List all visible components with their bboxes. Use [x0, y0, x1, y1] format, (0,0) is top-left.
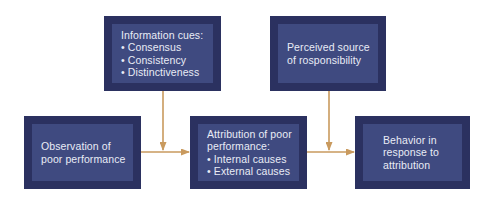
node-text-line: Attribution of poor — [207, 128, 293, 141]
node-text-line: poor performance — [41, 153, 127, 166]
node-perceived-source-panel: Perceived source of rosponsibility — [278, 24, 378, 83]
node-attribution: Attribution of poor performance: Interna… — [190, 116, 307, 189]
bullet-item: Consensus — [121, 41, 207, 54]
bullet-item: Distinctiveness — [121, 66, 207, 79]
node-text-line: performance: — [207, 140, 293, 153]
node-observation-panel: Observation of poor performance — [32, 124, 133, 181]
node-observation: Observation of poor performance — [24, 116, 141, 189]
bullet-item: Internal causes — [207, 153, 293, 166]
node-text-line: response to — [383, 146, 456, 159]
bullet-item: External causes — [207, 165, 293, 178]
node-text-line: of rosponsibility — [287, 54, 372, 67]
node-behavior: Behavior in response to attribution — [355, 116, 470, 189]
node-behavior-panel: Behavior in response to attribution — [363, 124, 462, 181]
bullet-list: Consensus Consistency Distinctiveness — [121, 41, 207, 79]
node-attribution-panel: Attribution of poor performance: Interna… — [198, 124, 299, 181]
node-information-cues: Information cues: Consensus Consistency … — [104, 16, 221, 91]
node-information-cues-panel: Information cues: Consensus Consistency … — [112, 24, 213, 83]
node-text-line: Perceived source — [287, 41, 372, 54]
node-title: Information cues: — [121, 29, 207, 42]
bullet-item: Consistency — [121, 54, 207, 67]
node-text-line: Behavior in — [383, 134, 456, 147]
node-text-line: Observation of — [41, 140, 127, 153]
node-text-line: attribution — [383, 159, 456, 172]
bullet-list: Internal causes External causes — [207, 153, 293, 178]
node-perceived-source: Perceived source of rosponsibility — [270, 16, 386, 91]
